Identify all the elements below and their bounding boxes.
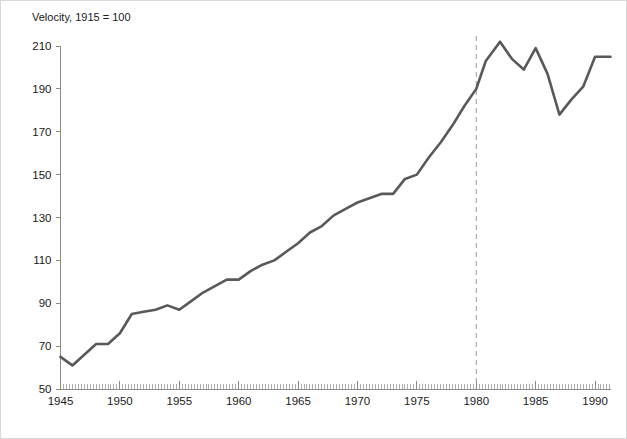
y-tick-label: 170	[32, 126, 51, 138]
x-tick-label: 1955	[166, 395, 192, 407]
y-tick-label: 130	[32, 212, 51, 224]
velocity-series-line	[61, 42, 611, 366]
y-tick-label: 90	[39, 297, 52, 309]
x-tick-label: 1985	[523, 395, 549, 407]
x-tick-label: 1945	[48, 395, 74, 407]
x-tick-label: 1965	[285, 395, 311, 407]
y-axis-tick-marks	[56, 46, 61, 389]
y-tick-label: 150	[32, 169, 51, 181]
x-tick-label: 1970	[345, 395, 371, 407]
chart-figure: Velocity, 1915 = 100 5070901101301501701…	[0, 0, 627, 439]
y-tick-label: 110	[33, 254, 51, 266]
y-tick-label: 210	[32, 40, 51, 52]
x-axis-minor-ticks	[61, 384, 610, 389]
y-tick-label: 50	[39, 383, 52, 395]
x-tick-label: 1960	[226, 395, 252, 407]
y-axis-tick-labels: 507090110130150170190210	[32, 40, 51, 395]
y-tick-label: 190	[32, 83, 51, 95]
y-tick-label: 70	[39, 340, 52, 352]
velocity-line-chart: Velocity, 1915 = 100 5070901101301501701…	[1, 1, 627, 439]
x-tick-label: 1975	[404, 395, 430, 407]
x-tick-label: 1980	[463, 395, 489, 407]
chart-title: Velocity, 1915 = 100	[32, 11, 131, 23]
x-axis-tick-labels: 1945195019551960196519701975198019851990	[48, 395, 608, 407]
x-tick-label: 1950	[107, 395, 133, 407]
x-tick-label: 1990	[582, 395, 608, 407]
